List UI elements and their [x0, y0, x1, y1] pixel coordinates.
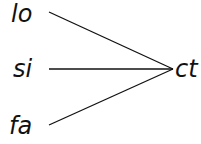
word-matching-diagram: lo si fa ct — [0, 0, 201, 144]
node-label-lo: lo — [11, 2, 32, 26]
connector-fa-ct — [49, 69, 173, 125]
connector-lo-ct — [49, 12, 173, 69]
node-label-si: si — [13, 57, 32, 81]
node-label-fa: fa — [9, 114, 32, 138]
node-label-ct: ct — [175, 57, 198, 81]
